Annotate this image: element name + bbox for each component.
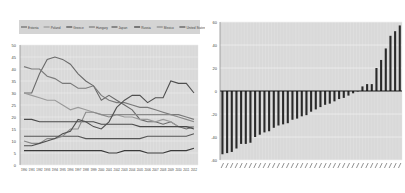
svg-text:Japan: Japan (119, 26, 128, 30)
y-tick-label: 30 (12, 91, 17, 96)
x-tick-label (389, 163, 391, 168)
bar (240, 91, 242, 144)
x-tick-label: 1996 (67, 168, 74, 172)
bar (305, 91, 307, 115)
x-tick-label (380, 163, 382, 168)
x-tick-label (384, 163, 386, 168)
x-tick-label (342, 163, 344, 168)
bar (394, 31, 396, 91)
bar (273, 91, 275, 128)
x-tick-label: 1990 (21, 168, 28, 172)
x-tick-label (314, 163, 316, 168)
bar (296, 91, 298, 119)
x-tick-label (272, 163, 274, 168)
bar (366, 84, 368, 91)
y-tick-label: 40 (12, 67, 17, 72)
bar (375, 68, 377, 91)
x-tick-label: 1999 (90, 168, 97, 172)
bar (301, 91, 303, 116)
x-tick-label: 2012 (191, 168, 198, 172)
x-tick-label (319, 163, 321, 168)
x-tick-label (394, 163, 396, 168)
y-tick-label: 0 (215, 89, 218, 94)
svg-text:Mexico: Mexico (164, 26, 174, 30)
x-tick-label (324, 163, 326, 168)
x-tick-label (305, 163, 307, 168)
x-tick-label (338, 163, 340, 168)
bar (361, 86, 363, 91)
bar (291, 91, 293, 120)
y-tick-label: 20 (12, 115, 17, 120)
bar (380, 60, 382, 91)
x-tick-label (240, 163, 242, 168)
x-tick-label: 2001 (106, 168, 113, 172)
y-tick-label: 0 (14, 163, 17, 168)
bar-chart: 6040200-20-40-60 (210, 0, 405, 193)
y-tick-label: -20 (211, 112, 218, 117)
x-tick-label (352, 163, 354, 168)
x-tick-label (268, 163, 270, 168)
bar (310, 91, 312, 112)
x-tick-label: 2010 (175, 168, 182, 172)
svg-text:Poland: Poland (51, 26, 61, 30)
y-tick-label: -60 (211, 158, 218, 163)
x-tick-label (375, 163, 377, 168)
bar-chart-panel: 6040200-20-40-60 (210, 0, 405, 193)
bar (235, 91, 237, 149)
x-tick-label: 1997 (75, 168, 82, 172)
x-tick-label: 2000 (98, 168, 105, 172)
bar (254, 91, 256, 137)
svg-text:Greece: Greece (73, 26, 84, 30)
bar (249, 91, 251, 143)
bar (319, 91, 321, 107)
bar (347, 91, 349, 96)
bar (371, 84, 373, 91)
bar (259, 91, 261, 135)
x-tick-label: 1995 (60, 168, 67, 172)
svg-text:United States: United States (186, 26, 205, 30)
x-tick-label (254, 163, 256, 168)
bar (333, 91, 335, 101)
x-tick-label (263, 163, 265, 168)
bar (221, 91, 223, 154)
bar (338, 91, 340, 99)
bar (389, 36, 391, 91)
y-tick-label: 15 (12, 127, 17, 132)
x-tick-label (370, 163, 372, 168)
bar (315, 91, 317, 109)
x-tick-label: 2002 (114, 168, 121, 172)
x-tick-label (333, 163, 335, 168)
x-tick-label (310, 163, 312, 168)
bar (385, 48, 387, 91)
bar (282, 91, 284, 124)
bar (277, 91, 279, 126)
x-tick-label (244, 163, 246, 168)
x-tick-label (286, 163, 288, 168)
y-tick-label: 10 (12, 139, 17, 144)
svg-text:Estonia: Estonia (28, 26, 39, 30)
x-tick-label: 1992 (36, 168, 43, 172)
x-tick-label (356, 163, 358, 168)
y-tick-label: 25 (12, 103, 17, 108)
x-tick-label (296, 163, 298, 168)
bar (329, 91, 331, 104)
x-tick-label (230, 163, 232, 168)
x-tick-label: 2006 (145, 168, 152, 172)
x-tick-label (347, 163, 349, 168)
bar (324, 91, 326, 105)
bar (226, 91, 228, 153)
bar (245, 91, 247, 144)
line-chart-panel: EstoniaPolandGreeceHungaryJapanRussiaMex… (0, 0, 205, 193)
x-tick-label (291, 163, 293, 168)
x-tick-label: 2009 (168, 168, 175, 172)
bar (231, 91, 233, 152)
x-tick-label: 1991 (29, 168, 36, 172)
x-tick-label (221, 163, 223, 168)
x-tick-label: 2007 (152, 168, 159, 172)
x-tick-label (361, 163, 363, 168)
y-tick-label: 40 (213, 43, 218, 48)
bar (263, 91, 265, 132)
x-tick-label: 2011 (183, 168, 189, 172)
x-tick-label: 1994 (52, 168, 59, 172)
line-chart: EstoniaPolandGreeceHungaryJapanRussiaMex… (0, 0, 205, 193)
